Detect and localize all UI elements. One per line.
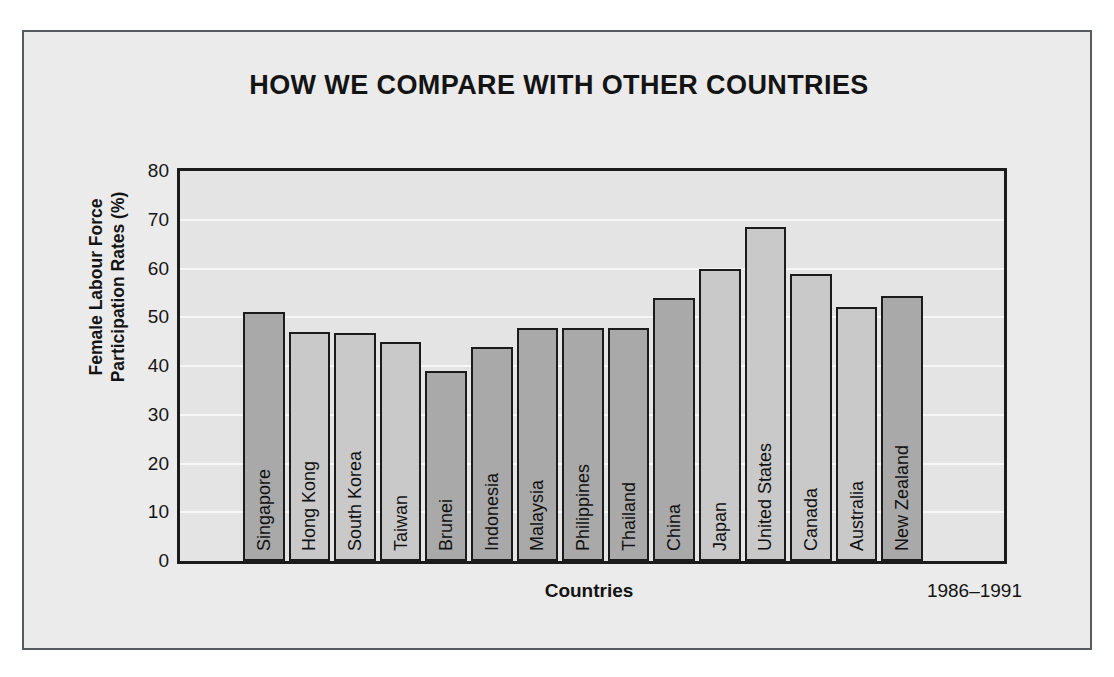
bar: Brunei (425, 371, 467, 561)
bar: Hong Kong (289, 332, 331, 561)
bar: United States (745, 227, 787, 561)
x-axis-title: Countries (177, 580, 1001, 602)
period-annotation: 1986–1991 (927, 580, 1022, 602)
y-axis-tick-label: 20 (148, 453, 169, 475)
bar: Singapore (243, 312, 285, 561)
y-axis-title: Female Labour Force Participation Rates … (85, 142, 131, 432)
y-axis-tick-label: 30 (148, 404, 169, 426)
y-axis-title-line-2: Participation Rates (%) (107, 142, 129, 432)
bar-category-label: Hong Kong (300, 461, 318, 551)
bar-category-label: Brunei (437, 499, 455, 551)
bar: Japan (699, 269, 741, 561)
bar-category-label: China (665, 504, 683, 551)
bar: Malaysia (517, 328, 559, 561)
y-axis-tick-label: 60 (148, 258, 169, 280)
y-axis-tick-label: 0 (158, 550, 169, 572)
y-axis-tick-label: 70 (148, 209, 169, 231)
bar-series: SingaporeHong KongSouth KoreaTaiwanBrune… (180, 171, 1004, 561)
bar: New Zealand (881, 296, 923, 561)
bar: Indonesia (471, 347, 513, 562)
y-axis-title-line-1: Female Labour Force (85, 142, 107, 432)
bar-category-label: Singapore (255, 469, 273, 551)
bar-category-label: New Zealand (893, 445, 911, 551)
y-axis-tick-label: 40 (148, 355, 169, 377)
bar: Canada (790, 274, 832, 561)
bar: South Korea (334, 333, 376, 561)
bar-category-label: United States (756, 443, 774, 551)
screenshot-root: HOW WE COMPARE WITH OTHER COUNTRIES Fema… (0, 0, 1114, 677)
bar-category-label: Indonesia (483, 473, 501, 551)
bar: Taiwan (380, 342, 422, 561)
bar-category-label: Canada (802, 488, 820, 551)
bar-category-label: Taiwan (392, 495, 410, 551)
bar-category-label: South Korea (346, 451, 364, 551)
chart-title: HOW WE COMPARE WITH OTHER COUNTRIES (24, 70, 1094, 101)
y-axis-tick-label: 50 (148, 306, 169, 328)
bar: Philippines (562, 328, 604, 561)
figure-frame: HOW WE COMPARE WITH OTHER COUNTRIES Fema… (22, 30, 1092, 650)
bar-category-label: Australia (848, 481, 866, 551)
bar-category-label: Malaysia (528, 480, 546, 551)
bar: Thailand (608, 328, 650, 561)
plot-area: 01020304050607080 SingaporeHong KongSout… (177, 168, 1007, 564)
bar: China (653, 298, 695, 561)
bar-category-label: Thailand (620, 482, 638, 551)
bar-category-label: Philippines (574, 464, 592, 551)
bar: Australia (836, 307, 878, 561)
y-axis-tick-label: 10 (148, 501, 169, 523)
y-axis-tick-label: 80 (148, 160, 169, 182)
bar-category-label: Japan (711, 502, 729, 551)
